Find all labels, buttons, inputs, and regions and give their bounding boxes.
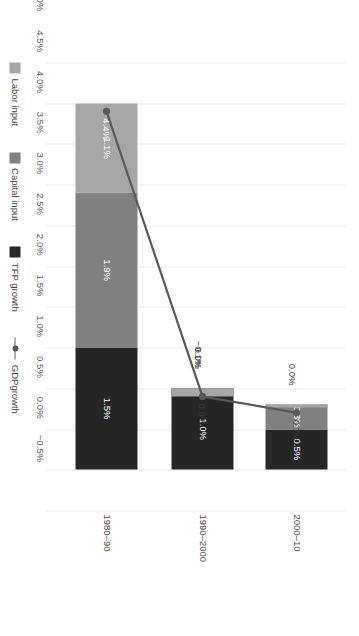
bar-value-label: 1.5% <box>101 397 111 419</box>
axis-tick-label: 0.0% <box>34 396 45 418</box>
bar-segment[interactable]: 1.9% <box>75 192 137 347</box>
bar-value-label: 0.5% <box>291 438 301 460</box>
category-label: 2000–10 <box>291 514 302 570</box>
legend-label: Labor input <box>10 78 21 126</box>
legend-line-marker-icon <box>10 337 21 359</box>
bar-value-label: 1.1% <box>101 137 111 159</box>
axis-tick-label: 3.5% <box>34 111 45 133</box>
category-label: 1990–2000 <box>197 514 208 570</box>
bar-series-layer: 1.5%1.9%1.1%1.0%0.0%−0.1%0.5%0.3%0.0% <box>45 62 345 510</box>
legend-label: GDPgrowth <box>10 364 21 413</box>
legend-item[interactable]: TFP growth <box>10 246 21 311</box>
bar-segment[interactable]: −0.1% <box>171 388 233 396</box>
axis-tick-label: 0.5% <box>34 356 45 378</box>
axis-tick-label: 2.5% <box>34 193 45 215</box>
bar-value-label: 0.3% <box>291 405 301 427</box>
bar-value-label: 0.0% <box>287 363 297 385</box>
bar-value-label: 1.9% <box>101 259 111 281</box>
legend-label: TFP growth <box>10 262 21 311</box>
axis-tick-label: 5.0% <box>34 0 45 11</box>
axis-tick-label: 3.0% <box>34 152 45 174</box>
legend-label: Capital input <box>10 168 21 221</box>
bar-segment[interactable]: 0.3% <box>265 404 327 428</box>
plot-area: 1.5%1.9%1.1%1.0%0.0%−0.1%0.5%0.3%0.0% 4.… <box>45 62 345 510</box>
axis-tick-label: 4.0% <box>34 70 45 92</box>
axis-tick-label: 1.0% <box>34 315 45 337</box>
legend-item[interactable]: Labor input <box>10 62 21 126</box>
bar-group[interactable]: 1.0%0.0%−0.1% <box>171 62 233 510</box>
chart-legend: Labor inputCapital inputTFP growthGDPgro… <box>5 62 25 510</box>
axis-tick-label: 4.5% <box>34 30 45 52</box>
legend-swatch-icon <box>10 152 21 163</box>
category-label: 1980–90 <box>101 514 112 570</box>
bar-segment[interactable]: 0.5% <box>265 429 327 470</box>
bar-group[interactable]: 0.5%0.3%0.0% <box>265 62 327 510</box>
bar-value-label: 1.0% <box>197 418 207 440</box>
axis-tick-label: 1.5% <box>34 274 45 296</box>
chart-canvas: 1.5%1.9%1.1%1.0%0.0%−0.1%0.5%0.3%0.0% 4.… <box>0 0 359 636</box>
legend-swatch-icon <box>10 246 21 257</box>
legend-swatch-icon <box>10 62 21 73</box>
axis-tick-label: −0.5% <box>34 434 45 462</box>
bar-segment[interactable]: 1.1% <box>75 103 137 193</box>
bar-group[interactable]: 1.5%1.9%1.1% <box>75 62 137 510</box>
bar-value-label: −0.1% <box>193 340 203 367</box>
legend-item[interactable]: Capital input <box>10 152 21 221</box>
legend-item[interactable]: GDPgrowth <box>10 337 21 413</box>
bar-segment[interactable]: 1.5% <box>75 347 137 469</box>
axis-tick-label: 2.0% <box>34 233 45 255</box>
bar-segment[interactable]: 0.0% <box>265 404 327 407</box>
bar-segment[interactable]: 1.0% <box>171 388 233 469</box>
